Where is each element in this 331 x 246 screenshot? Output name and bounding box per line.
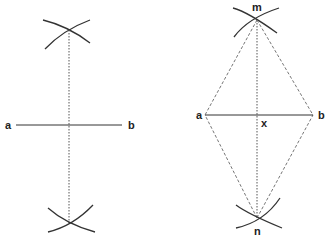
- side-mb: [257, 20, 313, 115]
- label-m: m: [252, 1, 262, 13]
- label-a: a: [196, 109, 203, 121]
- label-b: b: [128, 119, 135, 131]
- label-n: n: [254, 225, 261, 237]
- label-x: x: [261, 117, 268, 129]
- left-figure: a b: [5, 20, 135, 232]
- side-ma: [205, 20, 257, 115]
- side-nb: [257, 115, 313, 218]
- bottom-arc-1: [48, 208, 95, 232]
- bisector-diagram: a b m a b x n: [0, 0, 331, 246]
- label-a: a: [5, 119, 12, 131]
- bottom-arc-2: [48, 205, 93, 232]
- label-b: b: [318, 109, 325, 121]
- top-arc-2: [45, 20, 90, 49]
- side-na: [205, 115, 257, 218]
- right-figure: m a b x n: [196, 1, 325, 237]
- bottom-arc-2: [236, 198, 280, 228]
